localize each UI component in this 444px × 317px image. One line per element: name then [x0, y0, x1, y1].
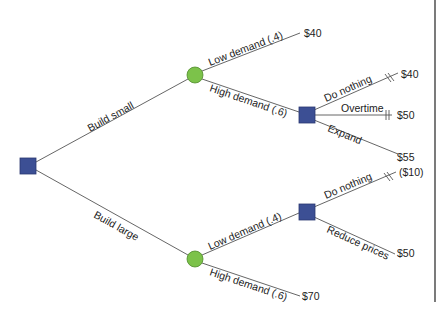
label-small-high-overtime: Overtime: [341, 102, 384, 114]
label-build-large: Build large: [92, 208, 141, 243]
label-small-high-nothing: Do nothing: [322, 72, 373, 104]
payoff-large-low-nothing: ($10): [399, 166, 424, 178]
prune-mark-small-nothing: [385, 73, 394, 82]
edge-build-large: [36, 170, 188, 255]
payoff-large-low-reduce: $50: [397, 247, 415, 259]
payoff-small-high-expand: $55: [397, 151, 415, 163]
chance-node-build-small: [187, 67, 203, 83]
payoff-small-high-overtime: $50: [397, 109, 415, 121]
decision-node-small-high: [299, 107, 315, 123]
label-large-high: High demand (.6): [208, 266, 289, 303]
decision-node-large-low: [299, 204, 315, 220]
label-small-low: Low demand (.4): [206, 28, 284, 67]
chance-node-build-large: [187, 251, 203, 267]
label-large-low: Low demand (.4): [206, 210, 283, 252]
label-large-low-reduce: Reduce prices: [325, 223, 391, 262]
decision-tree-diagram: Build small Build large Low demand (.4) …: [0, 0, 444, 317]
payoff-large-high: $70: [302, 290, 320, 302]
root-decision-node: [20, 158, 36, 174]
label-build-small: Build small: [85, 99, 135, 134]
label-small-high: High demand (.6): [208, 82, 289, 120]
payoff-small-low: $40: [304, 27, 322, 39]
label-small-high-expand: Expand: [326, 122, 364, 147]
payoff-small-high-nothing: $40: [401, 68, 419, 80]
